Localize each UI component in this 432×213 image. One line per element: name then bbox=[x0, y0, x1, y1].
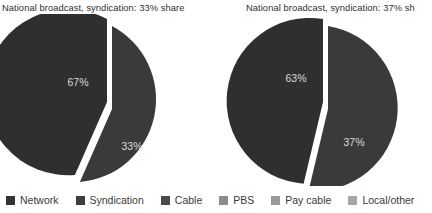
legend-item-syndication: Syndication bbox=[76, 194, 144, 206]
pie-slice-network-right bbox=[227, 18, 323, 184]
pie-slice-network-left bbox=[0, 14, 107, 175]
chart-panel-right: National broadcast, syndication: 37% sh … bbox=[216, 0, 432, 186]
legend-swatch-icon bbox=[6, 196, 15, 205]
legend-label-syndication: Syndication bbox=[90, 194, 144, 206]
legend-item-network: Network bbox=[6, 194, 59, 206]
chart-title-right: National broadcast, syndication: 37% sh bbox=[246, 2, 432, 14]
legend-item-cable: Cable bbox=[161, 194, 202, 206]
chart-panel-left: National broadcast, syndication: 33% sha… bbox=[0, 0, 216, 186]
legend-item-local-other: Local/other bbox=[348, 194, 414, 206]
legend-item-pbs: PBS bbox=[219, 194, 254, 206]
pie-label-major-right: 63% bbox=[285, 72, 306, 84]
legend-item-pay-cable: Pay cable bbox=[271, 194, 331, 206]
legend-swatch-icon bbox=[161, 196, 170, 205]
legend-swatch-icon bbox=[271, 196, 280, 205]
legend-swatch-icon bbox=[348, 196, 357, 205]
chart-page: National broadcast, syndication: 33% sha… bbox=[0, 0, 432, 213]
pie-svg-right: 63% 37% bbox=[216, 14, 432, 186]
pie-label-minor-left: 33% bbox=[121, 140, 142, 152]
legend-label-cable: Cable bbox=[175, 194, 202, 206]
pie-chart-right: 63% 37% bbox=[216, 14, 432, 186]
pie-label-major-left: 67% bbox=[67, 76, 88, 88]
legend-label-pbs: PBS bbox=[233, 194, 254, 206]
legend-label-network: Network bbox=[20, 194, 59, 206]
legend-swatch-icon bbox=[76, 196, 85, 205]
legend-label-pay-cable: Pay cable bbox=[285, 194, 331, 206]
pie-svg-left: 67% 33% bbox=[0, 14, 216, 186]
legend-swatch-icon bbox=[219, 196, 228, 205]
legend-label-local-other: Local/other bbox=[362, 194, 414, 206]
pie-label-minor-right: 37% bbox=[343, 136, 364, 148]
pie-chart-left: 67% 33% bbox=[0, 14, 216, 186]
chart-legend: Network Syndication Cable PBS Pay cable … bbox=[0, 190, 432, 210]
